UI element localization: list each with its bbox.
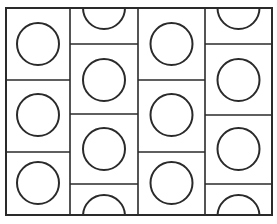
circle-shape [83, 128, 125, 170]
circle-shape [17, 162, 59, 204]
circle-shape [17, 94, 59, 136]
circle-shape [218, 59, 260, 101]
circle-shape [151, 94, 193, 136]
circle-shape [218, 128, 260, 170]
circle-shape [151, 23, 193, 65]
circle-shape [83, 0, 125, 29]
circle-shape [83, 59, 125, 101]
circle-shape [218, 195, 260, 224]
circle-grid-diagram [0, 0, 277, 224]
circle-shape [218, 0, 260, 29]
circle-shape [151, 162, 193, 204]
circle-shape [17, 23, 59, 65]
circle-shape [83, 195, 125, 224]
